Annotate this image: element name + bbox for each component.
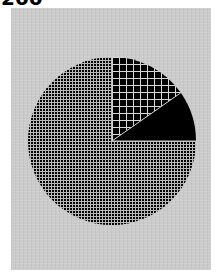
pie-chart [0, 0, 221, 278]
